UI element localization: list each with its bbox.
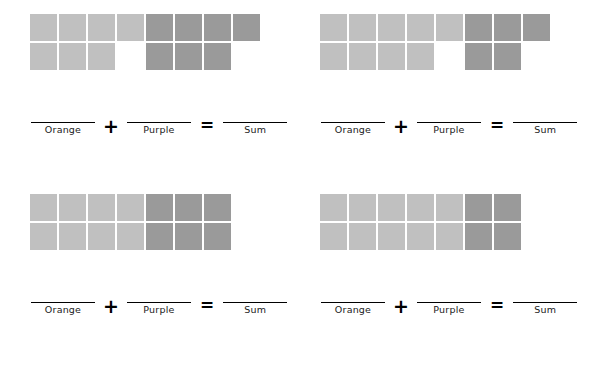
purple-square xyxy=(523,14,550,41)
purple-square xyxy=(175,223,202,250)
sum-answer-group-4: Sum xyxy=(512,302,578,316)
purple-answer-group-4: Purple xyxy=(416,302,482,316)
orange-square xyxy=(30,194,57,221)
orange-label-3: Orange xyxy=(45,304,81,316)
purple-answer-blank-4[interactable] xyxy=(417,302,481,303)
sum-answer-blank-4[interactable] xyxy=(513,302,577,303)
purple-square xyxy=(494,223,521,250)
sum-answer-blank-1[interactable] xyxy=(223,122,287,123)
purple-answer-blank-3[interactable] xyxy=(127,302,191,303)
orange-square xyxy=(407,43,434,70)
purple-label-3: Purple xyxy=(143,304,174,316)
worksheet-page: Orange + Purple = Sum Orange + Pu xyxy=(0,0,595,374)
plus-sign-3: + xyxy=(96,300,126,312)
purple-label-4: Purple xyxy=(433,304,464,316)
purple-square xyxy=(204,223,231,250)
orange-square xyxy=(436,194,463,221)
orange-answer-blank-1[interactable] xyxy=(31,122,95,123)
orange-square xyxy=(320,43,347,70)
orange-square xyxy=(88,43,115,70)
purple-square xyxy=(494,194,521,221)
purple-answer-blank-2[interactable] xyxy=(417,122,481,123)
purple-square xyxy=(204,194,231,221)
equation-row-4: Orange + Purple = Sum xyxy=(320,302,578,316)
sum-label-4: Sum xyxy=(534,304,556,316)
orange-square xyxy=(378,14,405,41)
orange-square xyxy=(117,223,144,250)
orange-square xyxy=(59,43,86,70)
orange-square xyxy=(349,43,376,70)
equation-row-1: Orange + Purple = Sum xyxy=(30,122,288,136)
equals-sign-1: = xyxy=(192,119,222,131)
purple-square xyxy=(465,43,492,70)
plus-sign-4: + xyxy=(386,300,416,312)
orange-square xyxy=(59,223,86,250)
orange-square xyxy=(30,43,57,70)
purple-answer-group-3: Purple xyxy=(126,302,192,316)
purple-square xyxy=(204,14,231,41)
orange-square xyxy=(59,14,86,41)
orange-answer-group-2: Orange xyxy=(320,122,386,136)
orange-answer-group-1: Orange xyxy=(30,122,96,136)
purple-square xyxy=(465,223,492,250)
orange-square xyxy=(349,14,376,41)
orange-answer-blank-4[interactable] xyxy=(321,302,385,303)
orange-answer-blank-3[interactable] xyxy=(31,302,95,303)
orange-label-2: Orange xyxy=(335,124,371,136)
purple-square xyxy=(233,14,260,41)
purple-square xyxy=(494,43,521,70)
orange-square xyxy=(88,194,115,221)
purple-square xyxy=(175,194,202,221)
sum-answer-group-3: Sum xyxy=(222,302,288,316)
orange-square xyxy=(407,14,434,41)
orange-square xyxy=(320,14,347,41)
sum-answer-group-2: Sum xyxy=(512,122,578,136)
orange-square xyxy=(88,14,115,41)
purple-square xyxy=(175,14,202,41)
equation-row-2: Orange + Purple = Sum xyxy=(320,122,578,136)
equals-sign-2: = xyxy=(482,119,512,131)
purple-answer-blank-1[interactable] xyxy=(127,122,191,123)
purple-square xyxy=(146,43,173,70)
equation-row-3: Orange + Purple = Sum xyxy=(30,302,288,316)
purple-square xyxy=(175,43,202,70)
purple-square xyxy=(204,43,231,70)
equals-sign-3: = xyxy=(192,299,222,311)
orange-square xyxy=(378,194,405,221)
orange-square xyxy=(117,194,144,221)
orange-square xyxy=(117,14,144,41)
orange-label-4: Orange xyxy=(335,304,371,316)
sum-answer-blank-3[interactable] xyxy=(223,302,287,303)
orange-label-1: Orange xyxy=(45,124,81,136)
orange-answer-group-4: Orange xyxy=(320,302,386,316)
equals-sign-4: = xyxy=(482,299,512,311)
purple-label-1: Purple xyxy=(143,124,174,136)
orange-square xyxy=(436,223,463,250)
purple-square xyxy=(146,223,173,250)
orange-square xyxy=(88,223,115,250)
orange-square xyxy=(349,194,376,221)
purple-square xyxy=(146,194,173,221)
orange-square xyxy=(30,223,57,250)
plus-sign-2: + xyxy=(386,120,416,132)
purple-square xyxy=(465,194,492,221)
orange-square xyxy=(407,194,434,221)
orange-square xyxy=(378,223,405,250)
orange-answer-blank-2[interactable] xyxy=(321,122,385,123)
purple-square xyxy=(465,14,492,41)
purple-answer-group-1: Purple xyxy=(126,122,192,136)
orange-square xyxy=(407,223,434,250)
sum-answer-blank-2[interactable] xyxy=(513,122,577,123)
orange-square xyxy=(30,14,57,41)
purple-square xyxy=(494,14,521,41)
sum-label-2: Sum xyxy=(534,124,556,136)
orange-square xyxy=(320,194,347,221)
sum-answer-group-1: Sum xyxy=(222,122,288,136)
orange-square xyxy=(320,223,347,250)
orange-square xyxy=(378,43,405,70)
plus-sign-1: + xyxy=(96,120,126,132)
sum-label-1: Sum xyxy=(244,124,266,136)
orange-answer-group-3: Orange xyxy=(30,302,96,316)
orange-square xyxy=(349,223,376,250)
purple-square xyxy=(146,14,173,41)
